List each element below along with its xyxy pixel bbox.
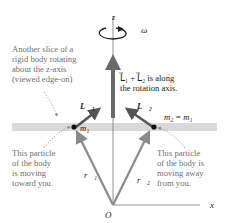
x-axis-label: x — [210, 200, 214, 210]
sum-annotation: L⃗₁ + L⃗₂ is along the rotation axis. — [120, 73, 178, 93]
slice-annotation: Another slice of a rigid body rotating a… — [12, 44, 76, 84]
particle1-annotation: This particle of the body is moving towa… — [12, 148, 55, 188]
m2-equals-m1-label: m₂ = m₁ — [164, 112, 192, 122]
particle2-annotation: This particle of the body is moving away… — [157, 148, 204, 188]
particle-m2 — [151, 124, 156, 129]
r1-label: r⃗₁ — [84, 170, 97, 180]
r1-vector — [77, 132, 113, 205]
origin-label: O — [105, 210, 112, 220]
L2-label: L⃗₂ — [137, 101, 152, 111]
L1-label: L⃗₁ — [80, 101, 95, 111]
rigid-body-slice — [12, 123, 217, 131]
z-axis-label: z — [112, 13, 115, 23]
particle-m1 — [71, 124, 76, 129]
r2-label: r⃗₂ — [137, 175, 150, 185]
r2-vector — [113, 132, 149, 205]
omega-label: ω — [141, 25, 147, 35]
m1-label: m₁ — [80, 123, 89, 133]
